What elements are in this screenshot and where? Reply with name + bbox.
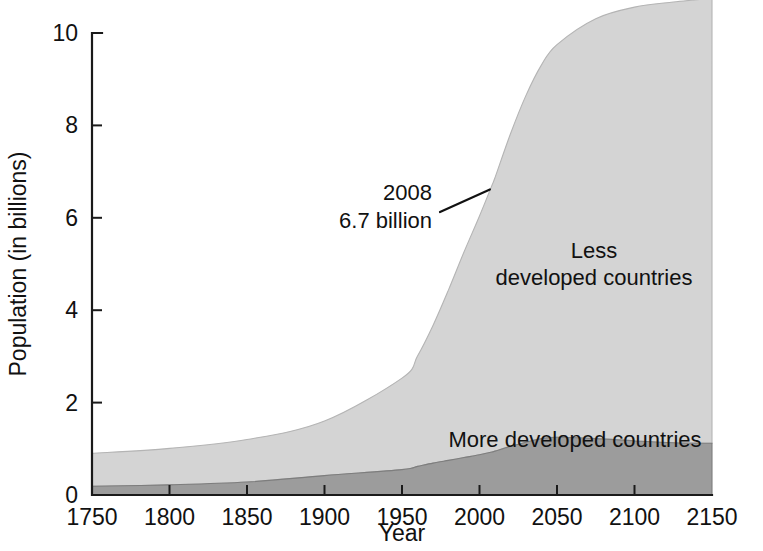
x-tick-label-1900: 1900 (299, 504, 350, 530)
x-tick-label-1800: 1800 (144, 504, 195, 530)
less-developed-label-line2: developed countries (496, 265, 693, 290)
y-tick-label-6: 6 (65, 205, 78, 231)
more-developed-label: More developed countries (448, 427, 701, 452)
x-tick-label-1750: 1750 (66, 504, 117, 530)
area-less-developed-countries (92, 0, 712, 486)
population-chart: 0246810 17501800185019001950200020502100… (0, 0, 763, 551)
less-developed-label-line1: Less (571, 238, 617, 263)
x-tick-label-2050: 2050 (531, 504, 582, 530)
x-axis-title: Year (379, 520, 426, 546)
y-tick-label-2: 2 (65, 390, 78, 416)
x-tick-label-1850: 1850 (221, 504, 272, 530)
callout-value-text: 6.7 billion (339, 208, 432, 233)
y-tick-label-4: 4 (65, 297, 78, 323)
x-tick-label-2150: 2150 (686, 504, 737, 530)
x-tick-label-2100: 2100 (609, 504, 660, 530)
y-axis-title: Population (in billions) (5, 151, 31, 376)
x-tick-label-2000: 2000 (454, 504, 505, 530)
y-axis-ticks (92, 33, 102, 403)
callout-year-text: 2008 (383, 180, 432, 205)
y-axis-tick-labels: 0246810 (52, 20, 78, 508)
y-tick-label-8: 8 (65, 112, 78, 138)
chart-canvas: 0246810 17501800185019001950200020502100… (0, 0, 763, 551)
population-2008-callout: 2008 6.7 billion (339, 180, 490, 233)
y-tick-label-10: 10 (52, 20, 78, 46)
area-bands (92, 0, 712, 495)
